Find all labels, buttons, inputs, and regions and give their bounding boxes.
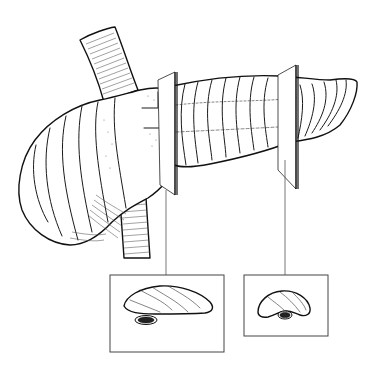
section-plane-2 [278, 65, 298, 189]
pancreas-head [19, 88, 174, 245]
pancreas-diagram [0, 0, 375, 369]
vessel-upper [80, 27, 138, 102]
section-plane-1 [158, 72, 177, 195]
pancreas-body [172, 76, 357, 167]
cross-section-inset-2 [244, 275, 328, 336]
cross-section-inset-1 [110, 275, 224, 352]
